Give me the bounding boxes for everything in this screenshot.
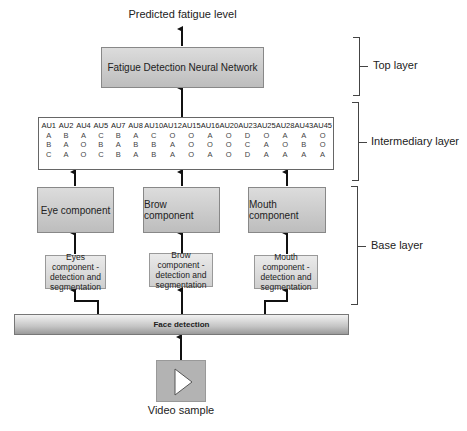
au-cell: A <box>257 140 276 150</box>
intermediary-layer-tick <box>359 142 367 143</box>
au-cell: A <box>163 140 182 150</box>
au-header: AU5 <box>92 121 109 131</box>
au-cell: A <box>40 131 57 141</box>
au-cell: B <box>110 131 127 141</box>
au-cell: C <box>238 140 257 150</box>
intermediary-layer-label: Intermediary layer <box>371 135 459 147</box>
au-cell: A <box>201 150 220 160</box>
top-layer-bracket <box>353 37 360 96</box>
au-cell: O <box>163 131 182 141</box>
au-cell: C <box>92 150 109 160</box>
au-header: AU43 <box>294 121 313 131</box>
au-cell: A <box>313 150 332 160</box>
au-cell: O <box>313 131 332 141</box>
au-header: AU4 <box>75 121 92 131</box>
au-cell: O <box>182 131 201 141</box>
au-header: AU23 <box>238 121 257 131</box>
action-unit-table: AU1AU2AU4AU5AU7AU8AU10AU12AU15AU16AU20AU… <box>38 117 334 170</box>
action-unit-grid: AU1AU2AU4AU5AU7AU8AU10AU12AU15AU16AU20AU… <box>39 118 333 159</box>
au-cell: B <box>57 131 74 141</box>
au-cell: O <box>182 150 201 160</box>
au-cell: O <box>313 140 332 150</box>
au-cell: A <box>127 150 144 160</box>
au-header: AU7 <box>110 121 127 131</box>
base-layer-bracket <box>351 186 358 305</box>
eye-component-box: Eye component <box>37 187 114 233</box>
base-layer-tick <box>358 246 366 247</box>
au-cell: B <box>92 140 109 150</box>
au-header: AU25 <box>257 121 276 131</box>
au-header: AU20 <box>219 121 238 131</box>
au-cell: D <box>238 131 257 141</box>
au-cell: O <box>219 131 238 141</box>
au-header: AU45 <box>313 121 332 131</box>
au-cell: B <box>127 140 144 150</box>
au-header: AU8 <box>127 121 144 131</box>
eye-detection-box: Eyes component - detection and segmentat… <box>45 255 106 289</box>
top-layer-label: Top layer <box>373 59 418 71</box>
au-cell: C <box>144 131 163 141</box>
au-cell: O <box>75 150 92 160</box>
output-label: Predicted fatigue level <box>100 8 265 20</box>
au-cell: O <box>75 140 92 150</box>
au-header: AU2 <box>57 121 74 131</box>
brow-detection-box: Brow component - detection and segmentat… <box>149 253 213 287</box>
au-cell: B <box>40 140 57 150</box>
brow-component-box: Brow component <box>143 187 220 233</box>
au-header: AU28 <box>276 121 295 131</box>
au-cell: D <box>238 150 257 160</box>
au-cell: B <box>144 140 163 150</box>
au-cell: A <box>276 150 295 160</box>
au-cell: O <box>219 140 238 150</box>
au-header: AU15 <box>182 121 201 131</box>
mouth-component-box: Mouth component <box>248 187 326 233</box>
au-cell: A <box>163 150 182 160</box>
video-sample-label: Video sample <box>131 404 231 416</box>
au-cell: A <box>294 131 313 141</box>
neural-network-box: Fatigue Detection Neural Network <box>101 47 264 88</box>
au-cell: A <box>201 131 220 141</box>
au-cell: O <box>201 140 220 150</box>
intermediary-layer-bracket <box>352 102 359 181</box>
video-sample-box <box>156 360 206 402</box>
au-cell: A <box>127 131 144 141</box>
au-cell: A <box>57 150 74 160</box>
au-header: AU10 <box>144 121 163 131</box>
au-header: AU12 <box>163 121 182 131</box>
au-cell: A <box>257 150 276 160</box>
au-cell: A <box>57 140 74 150</box>
au-cell: O <box>257 131 276 141</box>
face-detection-bar: Face detection <box>14 314 349 335</box>
base-layer-label: Base layer <box>371 239 423 251</box>
au-cell: C <box>92 131 109 141</box>
au-cell: C <box>40 150 57 160</box>
au-cell: B <box>294 140 313 150</box>
au-cell: O <box>276 140 295 150</box>
au-cell: B <box>110 150 127 160</box>
au-header: AU16 <box>201 121 220 131</box>
au-header: AU1 <box>40 121 57 131</box>
au-cell: B <box>144 150 163 160</box>
play-icon <box>157 361 207 403</box>
top-layer-tick <box>360 66 368 67</box>
au-cell: O <box>219 150 238 160</box>
au-cell: A <box>75 131 92 141</box>
au-cell: A <box>294 150 313 160</box>
mouth-detection-box: Mouth component - detection and segmenta… <box>254 255 318 289</box>
au-cell: A <box>276 131 295 141</box>
au-cell: O <box>182 140 201 150</box>
au-cell: A <box>110 140 127 150</box>
